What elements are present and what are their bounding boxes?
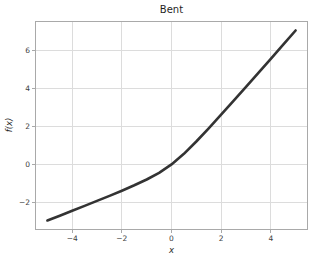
plot-canvas	[35, 21, 308, 230]
x-axis-label: x	[35, 245, 308, 255]
x-tick-label-0: 0	[169, 234, 174, 243]
y-axis-label: f(x)	[4, 118, 14, 133]
chart-figure: Bent −4−2024 −20246 x f(x)	[0, 0, 315, 267]
chart-title: Bent	[35, 4, 308, 15]
x-tick-label-2: 2	[219, 234, 224, 243]
x-tick-label-4: 4	[268, 234, 273, 243]
x-tick-label--4: −4	[67, 234, 78, 243]
y-tick-label--2: −2	[0, 198, 30, 207]
x-tick-label--2: −2	[116, 234, 127, 243]
plot-area	[35, 21, 308, 230]
y-tick-label-0: 0	[0, 160, 30, 169]
y-tick-label-4: 4	[0, 84, 30, 93]
y-tick-label-6: 6	[0, 46, 30, 55]
